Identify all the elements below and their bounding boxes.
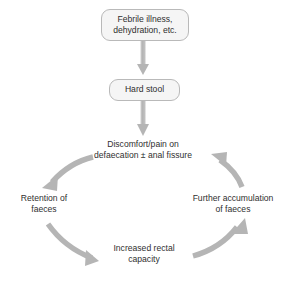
node-febrile-illness-line1: Febrile illness, [118,14,173,24]
node-retention-line1: Retention of [21,193,67,203]
node-hard-stool-label: Hard stool [125,84,164,96]
node-increased-rectal-capacity: Increased rectal capacity [99,243,189,266]
node-discomfort-line1: Discomfort/pain on [107,139,179,149]
node-capacity-line1: Increased rectal [113,243,174,253]
node-febrile-illness[interactable]: Febrile illness, dehydration, etc. [101,9,189,41]
node-febrile-illness-text: Febrile illness, dehydration, etc. [113,14,177,37]
node-accumulation-line1: Further accumulation [193,193,274,203]
arrow-accumulation-to-discomfort [211,152,242,187]
node-febrile-illness-line2: dehydration, etc. [113,25,177,35]
node-accumulation-line2: of faeces [216,204,251,214]
node-retention-of-faeces: Retention of faeces [2,193,86,216]
node-hard-stool[interactable]: Hard stool [109,79,180,101]
arrow-retention-to-capacity [48,224,99,266]
arrow-hard-stool-to-discomfort [137,101,149,136]
node-capacity-line2: capacity [128,254,160,264]
arrow-discomfort-to-retention [42,157,93,191]
arrow-trigger-to-hard-stool [137,41,149,75]
node-discomfort-line2: defaecation ± anal fissure [94,150,192,160]
node-further-accumulation: Further accumulation of faeces [181,193,285,216]
flowchart-diagram: Febrile illness, dehydration, etc. Hard … [0,0,287,284]
arrow-capacity-to-accumulation [193,218,248,256]
node-retention-line2: faeces [31,204,56,214]
node-discomfort: Discomfort/pain on defaecation ± anal fi… [72,139,214,162]
